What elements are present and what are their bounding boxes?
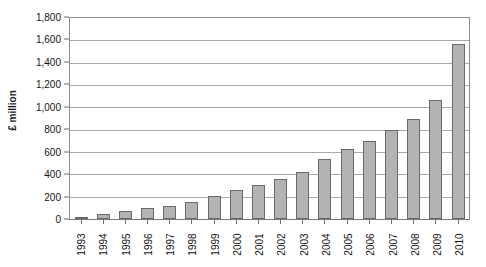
x-tick-label: 2010 [454,233,465,255]
x-tick-label: 1994 [98,233,109,255]
x-tick-label: 1998 [187,233,198,255]
x-label-slot: 2008 [404,226,426,264]
y-tick-label: 1,200 [36,79,61,90]
x-tick-label: 2009 [432,233,443,255]
x-tick-mark [369,220,370,224]
bar-slot [425,18,447,219]
x-label-slot: 2004 [315,226,337,264]
x-tick-mark [236,220,237,224]
y-tick-label: 200 [44,191,61,202]
bar-slot [137,18,159,219]
y-tick-label: 800 [44,124,61,135]
x-tick-label: 2007 [387,233,398,255]
bar-slot [92,18,114,219]
x-tick-mark [302,220,303,224]
x-tick-mark [103,220,104,224]
bar [252,185,265,219]
x-tick-label: 2005 [343,233,354,255]
bar [274,179,287,219]
bar [385,130,398,219]
x-tick-mark [280,220,281,224]
x-tick-mark [258,220,259,224]
x-tick-label: 1997 [165,233,176,255]
bar [119,211,132,219]
bar [163,206,176,219]
y-tick-label: 1,600 [36,34,61,45]
bar-slot [270,18,292,219]
bar [296,172,309,219]
x-tick-label: 1993 [76,233,87,255]
x-tick-mark [191,220,192,224]
y-tick-label: 400 [44,169,61,180]
x-tick-label: 1995 [120,233,131,255]
x-tick-label: 2003 [298,233,309,255]
x-tick-label: 2000 [231,233,242,255]
x-label-slot: 2006 [359,226,381,264]
bar-series [70,18,469,219]
x-label-slot: 2005 [337,226,359,264]
bar [407,119,420,220]
x-tick-mark [458,220,459,224]
x-label-slot: 2007 [382,226,404,264]
bar-slot [336,18,358,219]
bar [318,159,331,219]
x-tick-mark [169,220,170,224]
x-label-slot: 2000 [226,226,248,264]
x-label-slot: 1993 [70,226,92,264]
x-tick-label: 2001 [254,233,265,255]
x-tick-mark [391,220,392,224]
bar [141,208,154,219]
x-tick-mark [347,220,348,224]
y-axis-ticks: 1,8001,6001,4001,2001,0008006004002000 [0,17,69,220]
bar-slot [380,18,402,219]
bar [97,214,110,219]
bar-slot [70,18,92,219]
y-tick-label: 1,400 [36,56,61,67]
bar-slot [203,18,225,219]
x-tick-label: 1996 [142,233,153,255]
x-tick-mark [324,220,325,224]
bar [75,217,88,219]
bar-slot [314,18,336,219]
bar [230,190,243,219]
bar-slot [403,18,425,219]
y-tick-label: 1,800 [36,12,61,23]
x-tick-mark [81,220,82,224]
y-tick-label: 600 [44,146,61,157]
bar-slot [292,18,314,219]
x-label-slot: 2003 [293,226,315,264]
x-tick-mark [147,220,148,224]
x-label-slot: 2002 [270,226,292,264]
x-tick-label: 1999 [209,233,220,255]
x-label-slot: 2001 [248,226,270,264]
bar [185,202,198,219]
x-label-slot: 1999 [204,226,226,264]
bar-slot [247,18,269,219]
x-label-slot: 2009 [426,226,448,264]
bar [452,44,465,219]
chart-figure: £ million 1,8001,6001,4001,2001,00080060… [0,0,486,267]
bar-slot [447,18,469,219]
bar [208,196,221,219]
y-tick-label: 1,000 [36,101,61,112]
y-tick-label: 0 [55,214,61,225]
bar-slot [181,18,203,219]
x-label-slot: 1997 [159,226,181,264]
x-tick-label: 2006 [365,233,376,255]
x-label-slot: 1994 [92,226,114,264]
bar-slot [159,18,181,219]
x-label-slot: 1996 [137,226,159,264]
bar-slot [114,18,136,219]
bar-slot [358,18,380,219]
x-tick-label: 2004 [320,233,331,255]
x-tick-label: 2002 [276,233,287,255]
x-tick-label: 2008 [409,233,420,255]
bar [363,141,376,219]
x-tick-mark [125,220,126,224]
bar [341,149,354,219]
x-label-slot: 2010 [448,226,470,264]
x-tick-mark [435,220,436,224]
x-label-slot: 1995 [115,226,137,264]
bar-slot [225,18,247,219]
x-tick-mark [214,220,215,224]
